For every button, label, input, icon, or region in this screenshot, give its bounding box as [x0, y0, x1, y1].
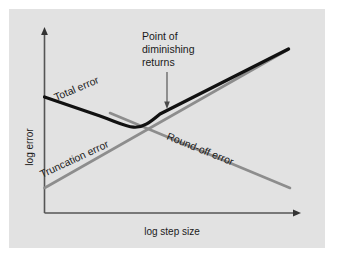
- round-off-error-label: Round-off error: [165, 130, 236, 168]
- truncation-error-label: Truncation error: [38, 137, 111, 179]
- truncation-error-line: [45, 49, 290, 188]
- annotation-line-3: returns: [142, 56, 175, 68]
- figure-root: Point of diminishing returns Total error…: [0, 0, 337, 259]
- error-vs-step-size-chart: Point of diminishing returns Total error…: [0, 0, 337, 259]
- annotation-line-2: diminishing: [142, 43, 195, 55]
- curves-group: [45, 49, 291, 188]
- y-axis-title: log error: [24, 128, 35, 166]
- annotation-line-1: Point of: [142, 30, 178, 42]
- x-axis-title: log step size: [144, 226, 200, 237]
- x-axis-arrowhead: [293, 210, 301, 217]
- diminishing-returns-annotation: Point of diminishing returns: [142, 30, 195, 109]
- y-axis-arrowhead: [41, 27, 48, 35]
- total-error-label: Total error: [52, 73, 101, 103]
